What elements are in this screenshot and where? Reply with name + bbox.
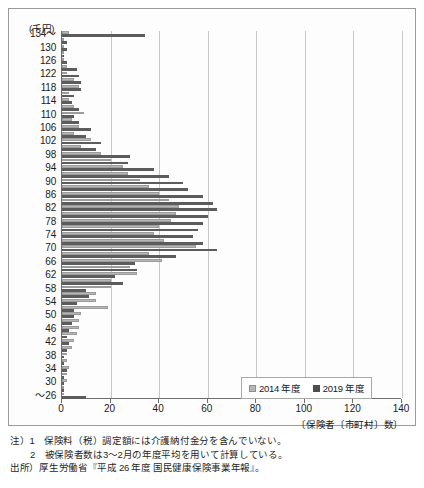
- y-axis-tick-label: 66: [45, 257, 56, 267]
- bar-row: [62, 245, 401, 252]
- bar-row: [62, 105, 401, 112]
- y-axis-tick-label: 30: [45, 377, 56, 387]
- bar-row: [62, 58, 401, 65]
- x-axis-tick-label: 100: [296, 403, 313, 414]
- bar-row: [62, 292, 401, 299]
- bar-row: [62, 285, 401, 292]
- y-axis-tick-label: 62: [45, 270, 56, 280]
- bar-row: [62, 118, 401, 125]
- bar-row: [62, 131, 401, 138]
- bar-row: [62, 172, 401, 179]
- y-axis-tick-label: 118: [41, 83, 56, 93]
- bar-row: [62, 279, 401, 286]
- bar-row: [62, 359, 401, 366]
- x-axis-tick-label: 20: [104, 403, 115, 414]
- bar-row: [62, 272, 401, 279]
- x-axis-tick-label: 80: [250, 403, 261, 414]
- y-axis-tick-label: ～26: [35, 391, 56, 401]
- y-axis-tick-label: 54: [45, 297, 56, 307]
- y-axis-tick-label: 106: [40, 123, 56, 133]
- bar-row: [62, 78, 401, 85]
- y-axis-tick-label: 122: [40, 69, 56, 79]
- bar-row: [62, 258, 401, 265]
- legend-swatch-2019: [313, 385, 320, 392]
- legend-swatch-2014: [249, 385, 256, 392]
- y-axis-tick-label: 90: [45, 177, 56, 187]
- bar-row: [62, 31, 401, 38]
- x-axis-tick-label: 40: [153, 403, 164, 414]
- y-axis-tick-label: 130: [40, 43, 56, 53]
- bar-row: [62, 225, 401, 232]
- plot-area: [61, 31, 401, 399]
- y-axis-tick-label: 74: [45, 230, 56, 240]
- source-line: 出所）厚生労働省『平成 26 年度 国民健康保険事業年報』。: [10, 461, 414, 475]
- bar-row: [62, 192, 401, 199]
- y-axis-tick-label: 46: [45, 324, 56, 334]
- bar-row: [62, 91, 401, 98]
- bar-row: [62, 366, 401, 373]
- bar-row: [62, 339, 401, 346]
- y-axis-tick-label: 58: [45, 284, 56, 294]
- bar-row: [62, 319, 401, 326]
- y-axis-tick-label: 94: [45, 163, 56, 173]
- y-axis-tick-label: 110: [41, 110, 56, 120]
- bar-row: [62, 305, 401, 312]
- bar-row: [62, 138, 401, 145]
- bar-row: [62, 238, 401, 245]
- bar-row: [62, 151, 401, 158]
- bar-row: [62, 312, 401, 319]
- y-axis-tick-label: 38: [45, 351, 56, 361]
- footnotes: 注）1 保険料（税）調定額には介護納付金分を含んでいない。 2 被保険者数は3～…: [10, 434, 414, 475]
- y-axis-tick-label: 126: [40, 56, 56, 66]
- footnote-line-1: 注）1 保険料（税）調定額には介護納付金分を含んでいない。: [10, 434, 414, 448]
- bar-row: [62, 64, 401, 71]
- y-axis-tick-label: 50: [45, 310, 56, 320]
- bar-row: [62, 265, 401, 272]
- legend-item-2019: 2019 年度: [313, 381, 365, 395]
- legend-label-2014: 2014 年度: [259, 381, 301, 395]
- bar-row: [62, 98, 401, 105]
- x-axis-tick-label: 0: [58, 403, 64, 414]
- x-axis-label-group: 020406080100120140: [61, 403, 401, 417]
- y-axis-label-group: 134～130126122118114110106102989490868278…: [9, 31, 59, 399]
- y-axis-tick-label: 98: [45, 150, 56, 160]
- y-axis-tick-label: 114: [41, 96, 56, 106]
- y-axis-tick-label: 86: [45, 190, 56, 200]
- bar-row: [62, 51, 401, 58]
- bar-row: [62, 205, 401, 212]
- x-axis-tick-label: 140: [393, 403, 410, 414]
- chart-frame: (千円) 134～1301261221181141101061029894908…: [8, 8, 416, 426]
- y-axis-tick-label: 82: [45, 203, 56, 213]
- gridline-x-140: [402, 31, 403, 398]
- bar-row: [62, 185, 401, 192]
- footnote-line-2: 2 被保険者数は3～2月の年度平均を用いて計算している。: [10, 448, 414, 462]
- x-axis-title: 〔保険者〔市町村〕数〕: [296, 417, 403, 431]
- y-axis-tick-label: 78: [45, 217, 56, 227]
- y-axis-tick-label: 134～: [30, 29, 56, 39]
- bar-row: [62, 145, 401, 152]
- legend-item-2014: 2014 年度: [249, 381, 301, 395]
- bar-row: [62, 332, 401, 339]
- bar-row: [62, 345, 401, 352]
- bars-layer: [62, 31, 401, 398]
- y-axis-tick-label: 42: [45, 337, 56, 347]
- chart-legend: 2014 年度 2019 年度: [241, 377, 372, 399]
- bar-row: [62, 38, 401, 45]
- legend-label-2019: 2019 年度: [323, 381, 365, 395]
- bar-row: [62, 212, 401, 219]
- x-axis-tick-label: 120: [344, 403, 361, 414]
- y-axis-tick-label: 102: [40, 136, 56, 146]
- y-axis-tick-label: 34: [45, 364, 56, 374]
- bar-row: [62, 325, 401, 332]
- bar-row: [62, 232, 401, 239]
- bar-row: [62, 125, 401, 132]
- bar-row: [62, 178, 401, 185]
- bar-row: [62, 299, 401, 306]
- bar-row: [62, 165, 401, 172]
- bar-row: [62, 198, 401, 205]
- bar-row: [62, 111, 401, 118]
- bar-row: [62, 218, 401, 225]
- bar-2019: [62, 396, 86, 399]
- bar-row: [62, 252, 401, 259]
- bar-row: [62, 44, 401, 51]
